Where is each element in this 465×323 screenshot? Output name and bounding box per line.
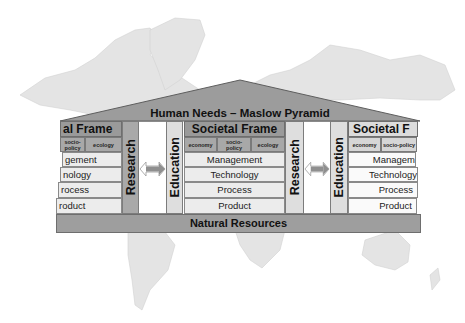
pillar-education-1-label: Education (168, 137, 182, 197)
frame-sub-left-ecology: ecology (85, 137, 122, 152)
pillar-research-2-label: Research (288, 139, 302, 195)
frame-row-center-technology: Technology (184, 167, 285, 182)
frame-row-right-product: Product (348, 198, 417, 214)
frame-row-left-product: roduct (56, 198, 122, 214)
double-arrow-icon (304, 160, 330, 178)
frame-title-right: Societal F (348, 121, 418, 137)
frame-row-left-process: rocess (58, 182, 122, 198)
pillar-research-1-label: Research (124, 139, 138, 195)
double-arrow-icon (139, 160, 166, 178)
frame-row-right-technology: Technology (348, 167, 418, 182)
roof-label: Human Needs – Maslow Pyramid (60, 106, 420, 120)
frame-row-left-management: gement (62, 152, 122, 167)
frame-title-left: al Frame (60, 121, 122, 137)
frame-row-center-process: Process (184, 182, 285, 198)
frame-title-center: Societal Frame (184, 121, 285, 137)
frame-row-center-management: Management (184, 152, 285, 167)
frame-row-right-process: Process (348, 182, 418, 198)
frame-row-center-product: Product (184, 198, 285, 214)
frame-sub-center-economy: economy (184, 137, 217, 152)
frame-sub-center-socio-policy: socio-policy (217, 137, 251, 152)
pillar-education-2: Education (330, 121, 348, 214)
frame-row-right-management: Managem (348, 152, 416, 167)
frame-sub-right-socio-policy: socio-policy (381, 137, 417, 152)
pillar-education-1: Education (166, 121, 183, 214)
base-natural-resources: Natural Resources (56, 214, 421, 233)
frame-sub-right-economy: economy (348, 137, 381, 152)
frame-sub-left-socio-policy: socio-policy (60, 137, 85, 152)
frame-row-left-technology: nology (60, 167, 122, 182)
frame-sub-center-ecology: ecology (251, 137, 285, 152)
pillar-research-2: Research (285, 121, 304, 214)
pillar-research-1: Research (122, 121, 139, 214)
pillar-education-2-label: Education (332, 137, 346, 197)
